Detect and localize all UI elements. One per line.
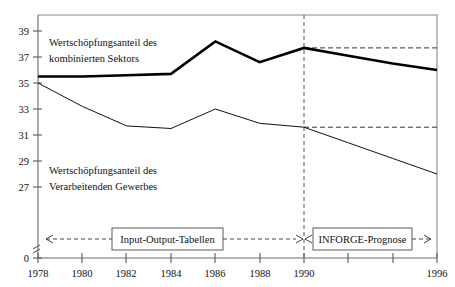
series-label-verarbeitend-line2: Verarbeitenden Gewerbes [49, 181, 157, 192]
y-axis-labels: 39 37 35 33 31 29 27 0 [19, 26, 30, 264]
x-axis-labels: 1978 1980 1982 1984 1986 1988 1990 1996 [28, 268, 448, 279]
period-box-forecast-label: INFORGE-Prognose [318, 234, 406, 245]
y-label-31: 31 [19, 130, 30, 141]
y-label-29: 29 [19, 156, 30, 167]
x-label-1990: 1990 [294, 268, 315, 279]
x-label-1996: 1996 [427, 268, 448, 279]
x-label-1984: 1984 [161, 268, 183, 279]
series-label-verarbeitend-line1: Wertschöpfungsanteil des [49, 165, 157, 176]
y-axis-break-icon [33, 245, 40, 253]
y-label-37: 37 [19, 52, 30, 63]
y-label-35: 35 [19, 78, 30, 89]
x-label-1988: 1988 [250, 268, 271, 279]
period-span-annotation: Input-Output-Tabellen INFORGE-Prognose [46, 228, 431, 250]
line-chart-svg: 39 37 35 33 31 29 27 0 1978 1980 1982 [0, 0, 455, 287]
series-annotation-verarbeitend: Wertschöpfungsanteil des Verarbeitenden … [49, 165, 157, 192]
series-annotation-kombiniert: Wertschöpfungsanteil des kombinierten Se… [49, 37, 157, 64]
series-label-kombiniert-line2: kombinierten Sektors [49, 53, 139, 64]
chart-container: 39 37 35 33 31 29 27 0 1978 1980 1982 [0, 0, 455, 287]
x-label-1986: 1986 [205, 268, 226, 279]
arrow-mid-left-icon [296, 235, 303, 243]
y-label-33: 33 [19, 104, 30, 115]
series-label-kombiniert-line1: Wertschöpfungsanteil des [49, 37, 157, 48]
y-label-27: 27 [19, 182, 30, 193]
period-box-historic-label: Input-Output-Tabellen [120, 234, 215, 245]
y-label-39: 39 [19, 26, 30, 37]
x-label-1980: 1980 [72, 268, 93, 279]
y-label-0: 0 [24, 253, 29, 264]
x-label-1982: 1982 [116, 268, 137, 279]
x-label-1978: 1978 [28, 268, 49, 279]
series-line-verarbeitendes-gewerbe [38, 83, 437, 174]
arrow-mid-right-icon [305, 235, 312, 243]
